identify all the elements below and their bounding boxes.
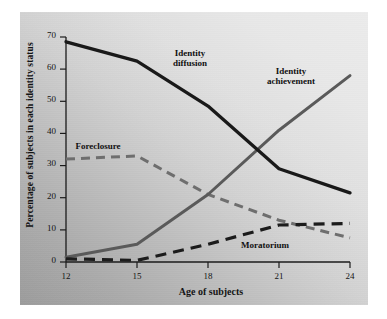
x-axis-title: Age of subjects bbox=[66, 286, 356, 297]
figure-canvas: Percentage of subjects in each identity … bbox=[0, 0, 387, 319]
series-label-identity-diffusion: Identity diffusion bbox=[158, 48, 222, 68]
y-tick-label-30: 30 bbox=[30, 158, 56, 168]
y-tick-label-50: 50 bbox=[30, 94, 56, 104]
series-line-identity-achievement bbox=[66, 76, 350, 258]
series-line-foreclosure bbox=[66, 156, 350, 238]
series-line-moratorium bbox=[66, 223, 350, 260]
y-tick-label-0: 0 bbox=[30, 255, 56, 265]
series-label-foreclosure: Foreclosure bbox=[62, 141, 134, 151]
x-tick-label-18: 18 bbox=[196, 271, 220, 281]
x-tick-label-21: 21 bbox=[267, 271, 291, 281]
x-axis-ticks bbox=[66, 262, 350, 268]
x-tick-label-12: 12 bbox=[54, 271, 78, 281]
y-tick-label-20: 20 bbox=[30, 191, 56, 201]
x-tick-label-15: 15 bbox=[125, 271, 149, 281]
y-tick-label-70: 70 bbox=[30, 30, 56, 40]
y-tick-label-60: 60 bbox=[30, 62, 56, 72]
series-label-moratorium: Moratorium bbox=[230, 240, 300, 250]
series-label-identity-achievement: Identity achievement bbox=[253, 66, 329, 86]
y-tick-label-40: 40 bbox=[30, 126, 56, 136]
x-tick-label-24: 24 bbox=[338, 271, 362, 281]
y-tick-label-10: 10 bbox=[30, 223, 56, 233]
